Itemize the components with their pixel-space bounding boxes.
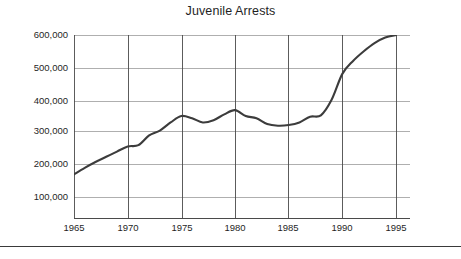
data-series-line <box>74 35 396 174</box>
y-tick-label-400000: 300,000 <box>2 126 68 136</box>
y-tick-label-600000: 100,000 <box>2 192 68 202</box>
x-tick-label-1980: 1980 <box>212 222 258 233</box>
x-tick-label-1990: 1990 <box>319 222 365 233</box>
y-tick-label-500000: 200,000 <box>2 159 68 169</box>
chart-title: Juvenile Arrests <box>0 4 461 18</box>
plot-area <box>74 35 410 218</box>
y-tick-label-200000: 500,000 <box>2 63 68 73</box>
x-tick-label-1985: 1985 <box>265 222 311 233</box>
x-tick-label-1975: 1975 <box>159 222 205 233</box>
x-axis-tick-labels: 1965 1970 1975 1980 1985 1990 1995 <box>0 222 461 236</box>
chart-plot-svg <box>74 35 410 220</box>
x-tick-label-1995: 1995 <box>373 222 419 233</box>
y-tick-label-300000: 400,000 <box>2 96 68 106</box>
horizontal-gridlines <box>74 36 410 198</box>
x-tick-label-1965: 1965 <box>51 222 97 233</box>
y-tick-label-100000: 600,000 <box>2 30 68 40</box>
footer-divider <box>0 246 461 247</box>
chart-figure: Juvenile Arrests 100,000 200,000 300,000… <box>0 0 461 259</box>
vertical-gridlines <box>75 35 397 218</box>
x-tick-label-1970: 1970 <box>105 222 151 233</box>
y-axis-tick-labels: 100,000 200,000 300,000 400,000 500,000 … <box>0 0 68 259</box>
